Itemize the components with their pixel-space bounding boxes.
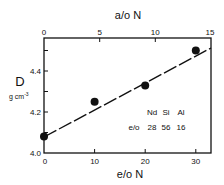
top-tick-label: 15 — [206, 28, 215, 37]
left-tick-label: 4.0 — [30, 149, 42, 158]
composition-annotation: Nd Si Al e/o 28 56 16 — [128, 108, 186, 132]
top-axis-title: a/o N — [115, 9, 141, 21]
svg-text:Al: Al — [177, 108, 184, 117]
left-tick-label: 4.4 — [30, 67, 42, 76]
bottom-tick-label: 0 — [43, 157, 48, 166]
svg-text:Si: Si — [162, 108, 169, 117]
top-tick-label: 0 — [42, 28, 47, 37]
bottom-axis-title: e/o N — [117, 168, 143, 180]
data-point — [192, 47, 200, 55]
y-axis-title: D — [15, 74, 24, 89]
y-axis-unit: g cm-3 — [9, 91, 29, 101]
bottom-tick-label: 10 — [90, 157, 99, 166]
top-tick-label: 10 — [151, 28, 160, 37]
plot-frame — [44, 38, 211, 153]
svg-text:e/o: e/o — [128, 123, 140, 132]
bottom-tick-label: 20 — [141, 157, 150, 166]
data-point — [91, 98, 99, 106]
svg-text:28: 28 — [148, 123, 157, 132]
data-point — [40, 133, 48, 141]
left-tick-label: 4.2 — [30, 108, 42, 117]
data-point — [141, 81, 149, 89]
top-tick-label: 5 — [97, 28, 102, 37]
svg-text:Nd: Nd — [147, 108, 157, 117]
chart: a/o N 0 5 10 15 0 10 20 30 e/o N 4.0 4.2… — [0, 0, 224, 185]
bottom-tick-label: 30 — [191, 157, 200, 166]
svg-text:16: 16 — [177, 123, 186, 132]
svg-text:56: 56 — [162, 123, 171, 132]
